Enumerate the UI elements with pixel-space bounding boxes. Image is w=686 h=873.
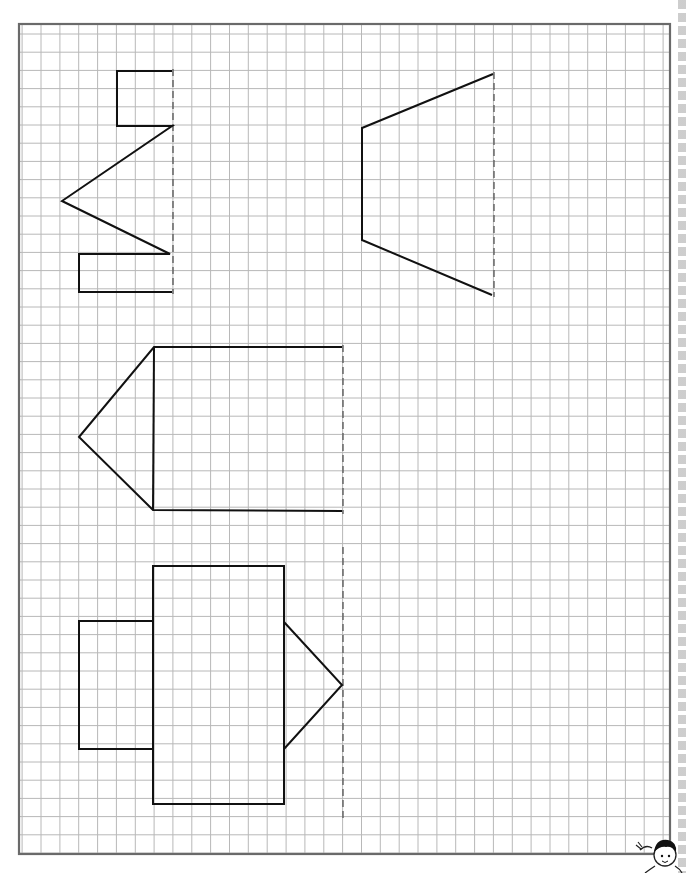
- shape-outline: [284, 622, 342, 749]
- symmetry-axes: [173, 69, 494, 818]
- half-figures: [62, 71, 493, 804]
- grid-lines: [19, 24, 670, 854]
- shape-edge: [153, 347, 154, 510]
- graph-paper-worksheet: [0, 0, 686, 873]
- cartoon-boy-icon: [636, 840, 682, 873]
